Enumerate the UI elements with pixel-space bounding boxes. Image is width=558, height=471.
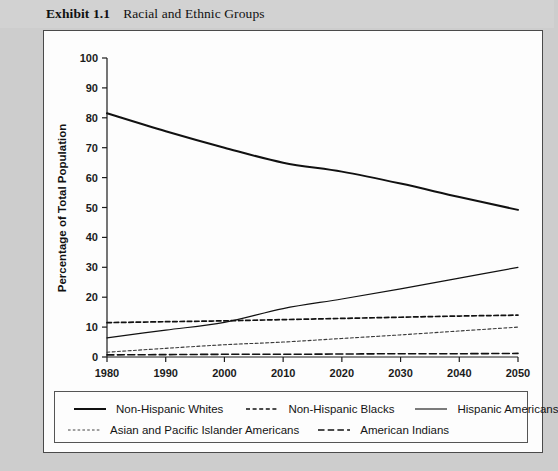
y-tick-label: 100 [80, 52, 98, 64]
series-line-asian-and-pacific-islander-americans [107, 327, 518, 352]
exhibit-title: Racial and Ethnic Groups [123, 6, 265, 22]
y-tick-label: 10 [86, 321, 98, 333]
legend-item-non-hispanic-blacks[interactable]: Non-Hispanic Blacks [245, 403, 394, 415]
exhibit-caption: Exhibit 1.1 Racial and Ethnic Groups [0, 0, 554, 28]
y-tick-label: 20 [86, 291, 98, 303]
x-tick-label: 2020 [330, 367, 354, 379]
chart-series-group [107, 113, 518, 355]
y-tick-label: 50 [86, 202, 98, 214]
legend-row-2: Asian and Pacific Islander Americans Ame… [55, 419, 527, 440]
legend-item-american-indians[interactable]: American Indians [317, 424, 449, 436]
x-tick-label: 1990 [153, 367, 177, 379]
legend-label-non-hispanic-blacks: Non-Hispanic Blacks [288, 403, 394, 415]
x-axis-ticks: 19801990200020102020203020402050 [95, 357, 530, 379]
x-tick-label: 2050 [506, 367, 530, 379]
x-tick-label: 2000 [212, 367, 236, 379]
y-axis-title: Percentage of Total Population [56, 124, 68, 292]
legend-swatch-fine-dashed [67, 424, 101, 436]
figure-panel: 0102030405060708090100 19801990200020102… [43, 30, 543, 453]
legend-label-hispanic-americans: Hispanic Americans [457, 403, 558, 415]
legend-swatch-long-dashed [317, 424, 351, 436]
legend-row-1: Non-Hispanic Whites Non-Hispanic Blacks … [55, 398, 527, 419]
exhibit-number: Exhibit 1.1 [46, 6, 110, 22]
y-tick-label: 70 [86, 142, 98, 154]
legend-item-asian-pacific-islander-americans[interactable]: Asian and Pacific Islander Americans [67, 424, 299, 436]
y-tick-label: 0 [92, 351, 98, 363]
legend-label-american-indians: American Indians [360, 424, 449, 436]
legend-item-non-hispanic-whites[interactable]: Non-Hispanic Whites [73, 403, 223, 415]
y-axis-ticks: 0102030405060708090100 [80, 52, 107, 363]
y-tick-label: 80 [86, 112, 98, 124]
x-tick-label: 2030 [388, 367, 412, 379]
series-line-american-indians [107, 353, 518, 355]
y-tick-label: 30 [86, 261, 98, 273]
line-chart-svg: 0102030405060708090100 19801990200020102… [44, 31, 542, 391]
x-tick-label: 2040 [447, 367, 471, 379]
y-tick-label: 60 [86, 172, 98, 184]
y-tick-label: 90 [86, 82, 98, 94]
legend-item-hispanic-americans[interactable]: Hispanic Americans [414, 403, 558, 415]
legend-swatch-solid-thin [414, 403, 448, 415]
y-tick-label: 40 [86, 231, 98, 243]
legend-label-non-hispanic-whites: Non-Hispanic Whites [116, 403, 223, 415]
legend-label-asian-pacific-islander-americans: Asian and Pacific Islander Americans [110, 424, 299, 436]
series-line-non-hispanic-whites [107, 113, 518, 210]
legend-swatch-dashed [245, 403, 279, 415]
chart-legend: Non-Hispanic Whites Non-Hispanic Blacks … [54, 391, 528, 443]
x-tick-label: 2010 [271, 367, 295, 379]
chart-plot-area: 0102030405060708090100 19801990200020102… [44, 31, 542, 391]
x-tick-label: 1980 [95, 367, 119, 379]
legend-swatch-solid-thick [73, 403, 107, 415]
chart-axes [107, 58, 518, 357]
series-line-hispanic-americans [107, 267, 518, 338]
series-line-non-hispanic-blacks [107, 315, 518, 322]
